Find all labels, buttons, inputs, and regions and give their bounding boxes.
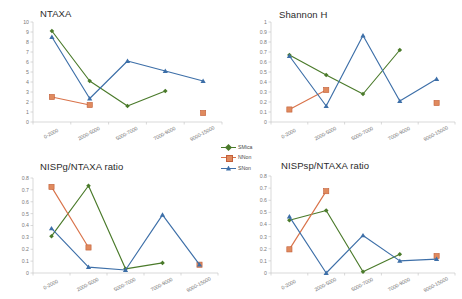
svg-text:9: 9 (26, 29, 29, 35)
svg-text:0.9: 0.9 (260, 29, 267, 35)
legend-label-smica: SMica (238, 144, 252, 151)
svg-text:7000-9000: 7000-9000 (152, 125, 176, 142)
legend-item-nnon: NNon (221, 154, 252, 162)
svg-text:0.5: 0.5 (260, 69, 267, 75)
svg-text:5000-7000: 5000-7000 (350, 276, 374, 293)
svg-text:0: 0 (264, 119, 267, 125)
svg-text:5: 5 (26, 69, 29, 75)
svg-text:9000-15000: 9000-15000 (185, 275, 212, 293)
legend-marker-smica-icon (221, 144, 236, 151)
svg-text:0.4: 0.4 (260, 79, 267, 85)
svg-text:0.7: 0.7 (260, 49, 267, 55)
svg-text:0.2: 0.2 (260, 99, 267, 105)
plot-area-shannon-h: 00.10.20.30.40.50.60.70.80.910-20002000-… (231, 0, 462, 150)
legend-label-snon: SNon (238, 165, 251, 172)
svg-text:0-2000: 0-2000 (43, 127, 60, 140)
svg-text:9000-15000: 9000-15000 (189, 124, 216, 142)
plot-svg-shannon-h: 00.10.20.30.40.50.60.70.80.910-20002000-… (231, 0, 462, 150)
chart-panel-nispsp-ntaxa-ratio: NISPsp/NTAXA ratio 00.10.20.30.40.50.60.… (231, 150, 462, 299)
svg-text:0.8: 0.8 (260, 173, 267, 179)
svg-text:0.6: 0.6 (260, 59, 267, 65)
legend: SMica NNon SNon (221, 143, 252, 175)
legend-label-nnon: NNon (238, 154, 251, 161)
svg-text:7000-9000: 7000-9000 (387, 125, 411, 142)
svg-text:2: 2 (26, 99, 29, 105)
svg-text:0.8: 0.8 (260, 39, 267, 45)
legend-item-smica: SMica (221, 143, 252, 151)
svg-text:0: 0 (26, 270, 29, 276)
svg-text:7000-9000: 7000-9000 (387, 276, 411, 293)
svg-text:0.3: 0.3 (260, 89, 267, 95)
svg-text:0.1: 0.1 (22, 258, 29, 264)
svg-text:0-2000: 0-2000 (280, 278, 297, 291)
svg-text:0.3: 0.3 (260, 234, 267, 240)
chart-panel-shannon-h: Shannon H 00.10.20.30.40.50.60.70.80.910… (231, 0, 462, 150)
svg-text:2000-5000: 2000-5000 (313, 125, 337, 142)
svg-text:7: 7 (26, 49, 29, 55)
svg-text:0.2: 0.2 (22, 246, 29, 252)
svg-text:0.5: 0.5 (260, 209, 267, 215)
svg-text:0.6: 0.6 (22, 199, 29, 205)
chart-panel-ntaxa: NTAXA 0123456789100-20002000-50005000-70… (0, 0, 231, 150)
svg-text:0.7: 0.7 (260, 185, 267, 191)
svg-text:0.2: 0.2 (260, 246, 267, 252)
svg-text:0: 0 (26, 119, 29, 125)
svg-text:2000-5000: 2000-5000 (77, 125, 101, 142)
chart-panel-nispg-ntaxa-ratio: NISPg/NTAXA ratio 00.10.20.30.40.50.60.7… (0, 150, 231, 299)
svg-text:2000-5000: 2000-5000 (76, 276, 100, 293)
svg-text:0.7: 0.7 (22, 187, 29, 193)
svg-text:0: 0 (264, 270, 267, 276)
svg-text:5000-7000: 5000-7000 (350, 125, 374, 142)
svg-text:0.3: 0.3 (22, 234, 29, 240)
svg-text:5000-7000: 5000-7000 (115, 125, 139, 142)
svg-text:10: 10 (23, 19, 29, 25)
legend-item-snon: SNon (221, 164, 252, 172)
legend-marker-nnon-icon (221, 154, 236, 161)
svg-text:0.4: 0.4 (260, 221, 267, 227)
svg-text:1: 1 (264, 19, 267, 25)
svg-text:0.5: 0.5 (22, 211, 29, 217)
svg-text:1: 1 (26, 109, 29, 115)
svg-text:8: 8 (26, 39, 29, 45)
plot-svg-nispg-ntaxa-ratio: 00.10.20.30.40.50.60.70.80-20002000-5000… (0, 150, 231, 299)
plot-svg-ntaxa: 0123456789100-20002000-50005000-70007000… (0, 0, 231, 150)
svg-text:0.6: 0.6 (260, 197, 267, 203)
svg-text:5000-7000: 5000-7000 (113, 276, 137, 293)
svg-text:2000-5000: 2000-5000 (313, 276, 337, 293)
plot-svg-nispsp-ntaxa-ratio: 00.10.20.30.40.50.60.70.80-20002000-5000… (231, 150, 462, 299)
svg-text:0-2000: 0-2000 (42, 278, 59, 291)
svg-text:0.1: 0.1 (260, 258, 267, 264)
svg-text:9000-15000: 9000-15000 (422, 275, 449, 293)
svg-text:0.4: 0.4 (22, 222, 29, 228)
svg-text:6: 6 (26, 59, 29, 65)
svg-text:7000-9000: 7000-9000 (150, 276, 174, 293)
svg-text:3: 3 (26, 89, 29, 95)
legend-marker-snon-icon (221, 165, 236, 172)
svg-text:4: 4 (26, 79, 29, 85)
plot-area-nispsp-ntaxa-ratio: 00.10.20.30.40.50.60.70.80-20002000-5000… (231, 150, 462, 299)
plot-area-nispg-ntaxa-ratio: 00.10.20.30.40.50.60.70.80-20002000-5000… (0, 150, 231, 299)
plot-area-ntaxa: 0123456789100-20002000-50005000-70007000… (0, 0, 231, 150)
svg-text:0.8: 0.8 (22, 175, 29, 181)
svg-text:9000-15000: 9000-15000 (422, 124, 449, 142)
svg-text:0.1: 0.1 (260, 109, 267, 115)
svg-text:0-2000: 0-2000 (280, 127, 297, 140)
